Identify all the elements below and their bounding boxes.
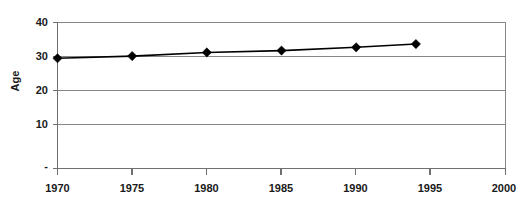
line-chart: 40 30 20 10 - 1970 1975 1980 1985 1990 1… — [0, 0, 530, 207]
x-tick-label-1995: 1995 — [418, 182, 442, 194]
x-tick-label-2000: 2000 — [492, 182, 516, 194]
chart-canvas: 40 30 20 10 - 1970 1975 1980 1985 1990 1… — [0, 0, 530, 207]
x-tick-label-1970: 1970 — [45, 182, 69, 194]
x-tick-label-1975: 1975 — [120, 182, 144, 194]
y-tick-label-10: 10 — [36, 118, 48, 130]
y-tick-label-20: 20 — [36, 84, 48, 96]
chart-background — [0, 0, 530, 207]
y-tick-label-0: - — [44, 160, 48, 172]
x-tick-label-1985: 1985 — [269, 182, 293, 194]
x-tick-label-1980: 1980 — [194, 182, 218, 194]
y-tick-label-40: 40 — [36, 16, 48, 28]
x-tick-label-1990: 1990 — [343, 182, 367, 194]
y-axis-title: Age — [9, 71, 21, 92]
y-tick-label-30: 30 — [36, 50, 48, 62]
